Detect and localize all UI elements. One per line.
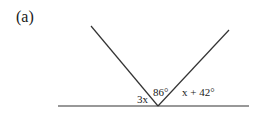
angle-label-left: 3x	[137, 93, 149, 105]
angle-label-right: x + 42°	[182, 86, 215, 98]
angle-diagram: 3x 86° x + 42°	[0, 0, 262, 122]
angle-label-middle: 86°	[153, 86, 168, 98]
